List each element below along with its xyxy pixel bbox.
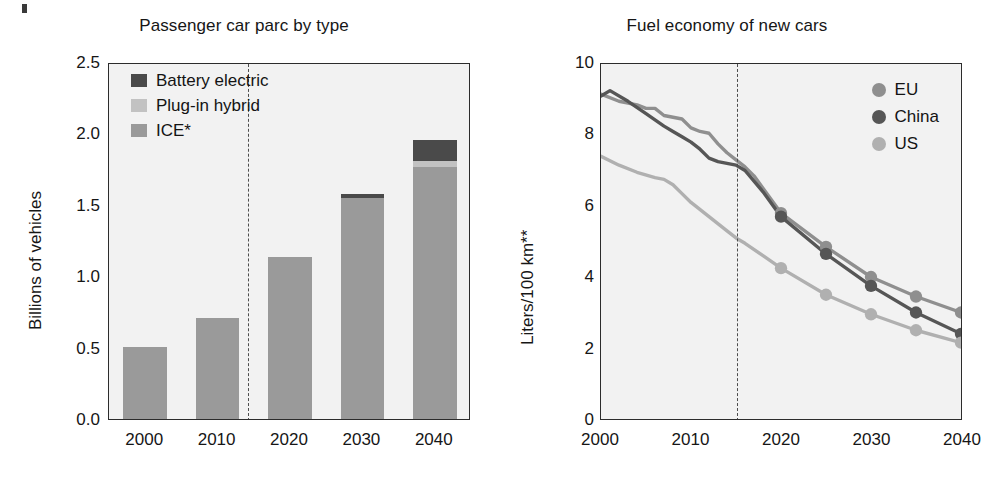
left-y-tick-1.5: 1.5 xyxy=(46,196,100,216)
bar-segment xyxy=(341,198,384,420)
legend-item-plug-in-hybrid: Plug-in hybrid xyxy=(131,93,268,118)
right-x-tick-2010: 2010 xyxy=(672,430,710,450)
panel-passenger-car-parc: Passenger car parc by type Billions of v… xyxy=(0,0,492,488)
left-y-axis-label: Billions of vehicles xyxy=(26,191,46,330)
bar-segment xyxy=(341,194,384,198)
data-point-marker xyxy=(820,248,832,260)
right-y-tick-6: 6 xyxy=(540,196,594,216)
left-x-tick-2000: 2000 xyxy=(125,430,163,450)
bar-segment xyxy=(413,140,456,161)
data-point-marker xyxy=(865,280,877,292)
left-x-tick-2010: 2010 xyxy=(198,430,236,450)
legend-item-ice: ICE* xyxy=(131,118,268,143)
legend-swatch-ice xyxy=(131,124,147,137)
legend-label-china: China xyxy=(895,107,939,127)
legend-label-battery-electric: Battery electric xyxy=(156,71,268,91)
forecast-divider-line-right xyxy=(737,64,738,420)
data-point-marker xyxy=(910,324,922,336)
legend-item-eu: EU xyxy=(872,76,939,103)
bar-segment xyxy=(413,167,456,420)
left-y-tick-2.0: 2.0 xyxy=(46,124,100,144)
left-x-tick-2020: 2020 xyxy=(270,430,308,450)
left-chart-title: Passenger car parc by type xyxy=(14,16,474,36)
legend-item-china: China xyxy=(872,103,939,130)
right-y-tick-4: 4 xyxy=(540,267,594,287)
line-series-us xyxy=(601,156,961,342)
legend-label-ice: ICE* xyxy=(156,121,191,141)
left-y-tick-0.0: 0.0 xyxy=(46,410,100,430)
right-y-tick-10: 10 xyxy=(540,53,594,73)
left-x-tick-2030: 2030 xyxy=(342,430,380,450)
right-x-tick-2030: 2030 xyxy=(853,430,891,450)
legend-dot-us xyxy=(872,137,886,151)
data-point-marker xyxy=(910,290,922,302)
data-point-marker xyxy=(820,289,832,301)
right-y-tick-0: 0 xyxy=(540,410,594,430)
legend-dot-china xyxy=(872,110,886,124)
left-plot-area: Battery electric Plug-in hybrid ICE* xyxy=(108,63,470,420)
legend-label-us: US xyxy=(895,134,919,154)
right-y-tick-8: 8 xyxy=(540,124,594,144)
bar-segment xyxy=(196,318,239,420)
right-x-tick-2020: 2020 xyxy=(762,430,800,450)
left-chart-legend: Battery electric Plug-in hybrid ICE* xyxy=(131,68,268,143)
right-y-axis-label: Liters/100 km** xyxy=(518,230,538,345)
legend-dot-eu xyxy=(872,83,886,97)
bar-segment xyxy=(123,347,166,420)
right-x-tick-2040: 2040 xyxy=(943,430,981,450)
bar-segment xyxy=(413,161,456,167)
legend-item-battery-electric: Battery electric xyxy=(131,68,268,93)
right-plot-area: EU China US xyxy=(600,63,962,420)
data-point-marker xyxy=(865,308,877,320)
left-x-tick-2040: 2040 xyxy=(415,430,453,450)
left-y-tick-2.5: 2.5 xyxy=(46,53,100,73)
right-chart-legend: EU China US xyxy=(872,76,939,157)
bar-segment xyxy=(268,257,311,420)
right-chart-title: Fuel economy of new cars xyxy=(502,16,952,36)
left-y-tick-1.0: 1.0 xyxy=(46,267,100,287)
legend-swatch-plug-in-hybrid xyxy=(131,99,147,112)
legend-swatch-battery-electric xyxy=(131,74,147,87)
data-point-marker xyxy=(955,337,961,349)
data-point-marker xyxy=(775,210,787,222)
legend-label-plug-in-hybrid: Plug-in hybrid xyxy=(156,96,260,116)
figure-two-panel-charts: Passenger car parc by type Billions of v… xyxy=(0,0,985,488)
legend-label-eu: EU xyxy=(895,80,919,100)
data-point-marker xyxy=(910,306,922,318)
data-point-marker xyxy=(775,262,787,274)
left-y-tick-0.5: 0.5 xyxy=(46,339,100,359)
data-point-marker xyxy=(955,306,961,318)
right-x-tick-2000: 2000 xyxy=(581,430,619,450)
right-y-tick-2: 2 xyxy=(540,339,594,359)
legend-item-us: US xyxy=(872,130,939,157)
